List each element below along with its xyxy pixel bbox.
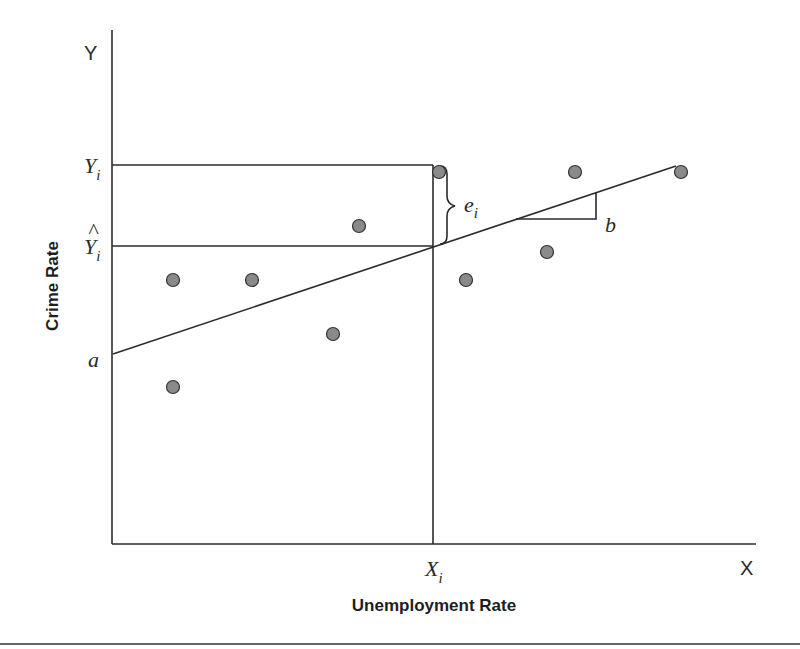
data-point xyxy=(675,166,688,179)
data-point xyxy=(541,246,554,259)
x-axis-title: Unemployment Rate xyxy=(352,596,516,615)
xi-label: Xi xyxy=(424,556,443,586)
yhat-label: Yi xyxy=(84,234,100,264)
data-point xyxy=(327,328,340,341)
data-point xyxy=(353,220,366,233)
data-point xyxy=(167,274,180,287)
x-axis-symbol: X xyxy=(740,557,753,579)
data-point xyxy=(246,274,259,287)
y-axis-title: Crime Rate xyxy=(43,241,62,331)
data-point xyxy=(433,166,446,179)
regression-diagram: Y Yi ^ Yi a ei b Xi X Unemployment Rate … xyxy=(0,0,800,649)
data-point xyxy=(167,381,180,394)
slope-label: b xyxy=(605,212,616,237)
residual-label: ei xyxy=(464,192,478,221)
regression-line xyxy=(113,166,676,354)
data-point xyxy=(569,166,582,179)
y-axis-symbol: Y xyxy=(84,42,97,64)
data-points xyxy=(167,166,688,394)
intercept-label: a xyxy=(88,347,99,372)
yi-label: Yi xyxy=(84,153,100,183)
data-point xyxy=(460,274,473,287)
